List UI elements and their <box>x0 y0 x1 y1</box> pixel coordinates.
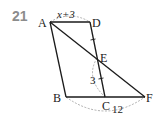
label-f: F <box>146 91 153 105</box>
label-b: B <box>53 91 61 105</box>
measure-bf: 12 <box>112 103 123 115</box>
geometry-diagram: A D E B C F x+3 3 12 <box>0 0 163 118</box>
tick-de <box>91 39 96 40</box>
label-c: C <box>102 99 110 113</box>
measure-ce: 3 <box>90 74 96 86</box>
label-a: A <box>38 16 47 30</box>
label-e: E <box>100 51 107 65</box>
tick-ec <box>99 78 104 79</box>
label-d: D <box>92 16 101 30</box>
measure-ad: x+3 <box>56 8 75 20</box>
